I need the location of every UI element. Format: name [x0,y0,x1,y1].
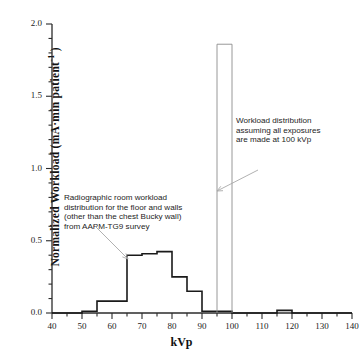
annotation-arrow-1 [217,170,258,191]
chart-figure: Normalized Workload (mA·min patient-1 ) … [0,0,363,359]
tall-bar-outline-100kvp [217,44,232,313]
annotation-arrow-0 [93,224,128,259]
histogram-step-line [52,252,352,313]
plot-canvas [0,0,363,359]
